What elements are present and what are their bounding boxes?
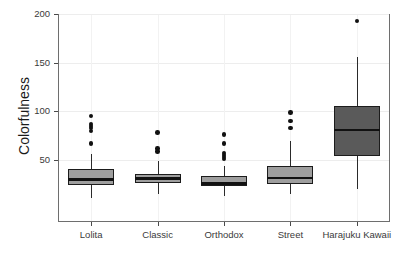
median-line bbox=[68, 178, 114, 180]
whisker-upper bbox=[357, 57, 358, 107]
whisker-upper bbox=[158, 161, 159, 174]
outlier-point bbox=[222, 141, 227, 146]
whisker-lower bbox=[224, 186, 225, 196]
outlier-point bbox=[155, 130, 160, 135]
whisker-lower bbox=[290, 184, 291, 194]
outlier-point bbox=[355, 19, 360, 24]
median-line bbox=[267, 177, 313, 179]
x-tick-mark bbox=[91, 222, 92, 226]
x-tick-label-harajuku-kawaii: Harajuku Kawaii bbox=[297, 230, 401, 240]
y-axis-label: Colorfulness bbox=[16, 46, 32, 186]
y-tick-mark bbox=[54, 63, 58, 64]
whisker-lower bbox=[357, 156, 358, 189]
outlier-point bbox=[155, 149, 160, 154]
x-tick-mark bbox=[357, 222, 358, 226]
median-line bbox=[201, 182, 247, 184]
outlier-point bbox=[288, 126, 293, 131]
x-tick-mark bbox=[224, 222, 225, 226]
whisker-lower bbox=[91, 185, 92, 198]
median-line bbox=[135, 177, 181, 179]
y-tick-label: 100 bbox=[22, 106, 50, 115]
y-tick-mark bbox=[54, 14, 58, 15]
box-lolita bbox=[68, 169, 114, 186]
x-tick-mark bbox=[290, 222, 291, 226]
whisker-upper bbox=[224, 166, 225, 176]
x-tick-mark bbox=[158, 222, 159, 226]
outlier-point bbox=[288, 110, 293, 115]
median-line bbox=[334, 129, 380, 131]
whisker-upper bbox=[290, 141, 291, 166]
whisker-lower bbox=[158, 183, 159, 194]
y-tick-label: 150 bbox=[22, 58, 50, 67]
y-tick-label: 200 bbox=[22, 9, 50, 18]
box-harajuku-kawaii bbox=[334, 106, 380, 156]
box-street bbox=[267, 166, 313, 184]
y-tick-mark bbox=[54, 160, 58, 161]
whisker-upper bbox=[91, 154, 92, 169]
boxplot-chart: Colorfulness 50100150200LolitaClassicOrt… bbox=[0, 0, 401, 259]
y-tick-mark bbox=[54, 111, 58, 112]
y-tick-label: 50 bbox=[22, 155, 50, 164]
outlier-point bbox=[288, 119, 293, 124]
